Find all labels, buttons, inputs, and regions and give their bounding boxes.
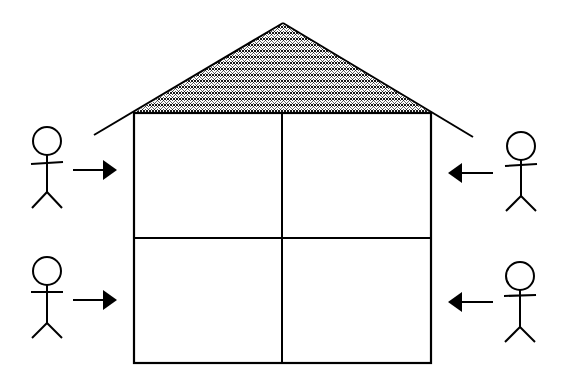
person-head-icon [506, 262, 534, 290]
person-top-right [505, 132, 537, 211]
person-bottom-left [31, 257, 63, 338]
roof-fill [134, 23, 431, 113]
arrow-left-icon [448, 292, 493, 312]
person-head-icon [33, 257, 61, 285]
room-top-left [136, 115, 280, 236]
room-bottom-left [136, 240, 280, 361]
person-head-icon [33, 127, 61, 155]
arrow-left-icon [448, 163, 493, 183]
room-top-right [284, 115, 429, 236]
house-diagram [0, 0, 562, 385]
arrow-right-icon [73, 290, 117, 310]
person-head-icon [507, 132, 535, 160]
diagram-canvas [0, 0, 562, 385]
person-bottom-right [504, 262, 536, 342]
arrow-right-icon [73, 160, 117, 180]
person-top-left [31, 127, 63, 208]
room-bottom-right [284, 240, 429, 361]
